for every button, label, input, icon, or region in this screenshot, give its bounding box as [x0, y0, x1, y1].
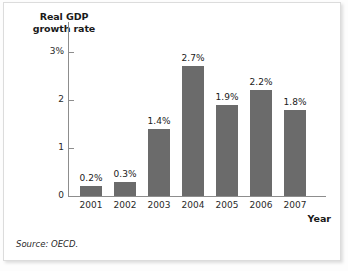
bar-series: 0.2%0.3%1.4%2.7%1.9%2.2%1.8% [68, 22, 326, 196]
bar [250, 90, 272, 196]
y-axis-tick-mark [68, 196, 74, 197]
x-axis-tick-label: 2002 [114, 200, 137, 210]
x-axis-title: Year [307, 213, 331, 224]
bar [114, 182, 136, 196]
y-axis-title-line-1: Real GDP [18, 11, 110, 23]
bar-value-label: 1.4% [148, 116, 171, 126]
bar-value-label: 0.3% [114, 169, 137, 179]
y-axis-tick-label: 3% [16, 46, 64, 56]
x-axis-tick-label: 2007 [284, 200, 307, 210]
y-axis-tick-label: 0 [16, 190, 64, 200]
x-axis-tick-label: 2004 [182, 200, 205, 210]
y-axis-tick-label: 2 [16, 94, 64, 104]
bar-value-label: 2.7% [182, 53, 205, 63]
bar-value-label: 1.9% [216, 92, 239, 102]
bar-value-label: 0.2% [80, 173, 103, 183]
bar [284, 110, 306, 196]
figure-container: Real GDP growth rate 0123% 0.2%0.3%1.4%2… [0, 0, 348, 271]
x-axis-tick-label: 2003 [148, 200, 171, 210]
source-note: Source: OECD. [16, 239, 78, 249]
x-axis-tick-label: 2006 [250, 200, 273, 210]
bar-value-label: 1.8% [284, 97, 307, 107]
bar [148, 129, 170, 196]
bar [216, 105, 238, 196]
y-axis-tick-label: 1 [16, 142, 64, 152]
bar [80, 186, 102, 196]
bar-value-label: 2.2% [250, 77, 273, 87]
x-axis-tick-label: 2005 [216, 200, 239, 210]
x-axis-tick-label: 2001 [80, 200, 103, 210]
bar [182, 66, 204, 196]
x-axis-line [68, 196, 326, 197]
